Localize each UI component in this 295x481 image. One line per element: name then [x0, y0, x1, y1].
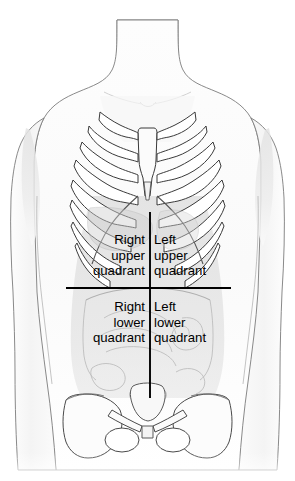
bottom-fade [0, 452, 295, 481]
pubic-symphysis [142, 426, 153, 438]
ruq-line-3: quadrant [93, 263, 145, 279]
luq-line-3: quadrant [154, 263, 206, 279]
llq-line-1: Left [154, 299, 206, 315]
left-obturator-foramen [105, 428, 139, 452]
luq-line-1: Left [154, 232, 206, 248]
ruq-line-1: Right [93, 232, 145, 248]
rlq-line-3: quadrant [93, 330, 145, 346]
anatomy-illustration [0, 0, 295, 481]
llq-line-3: quadrant [154, 330, 206, 346]
rlq-line-1: Right [93, 299, 145, 315]
abdominal-quadrants-diagram: Right upper quadrant Left upper quadrant… [0, 0, 295, 481]
left-lower-quadrant-label: Left lower quadrant [154, 299, 206, 346]
llq-line-2: lower [154, 315, 206, 331]
luq-line-2: upper [154, 248, 206, 264]
right-obturator-foramen [156, 428, 190, 452]
left-upper-quadrant-label: Left upper quadrant [154, 232, 206, 279]
right-upper-quadrant-label: Right upper quadrant [93, 232, 145, 279]
rlq-line-2: lower [93, 315, 145, 331]
ruq-line-2: upper [93, 248, 145, 264]
right-lower-quadrant-label: Right lower quadrant [93, 299, 145, 346]
